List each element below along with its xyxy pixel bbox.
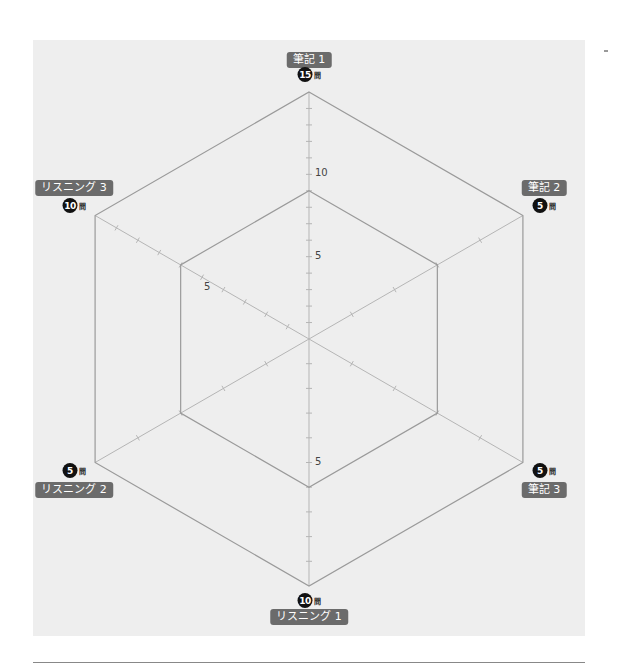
tick-label: 5 xyxy=(315,456,321,467)
axis-tick xyxy=(136,238,139,243)
axis-tick xyxy=(158,250,161,255)
axis-tick xyxy=(222,386,225,391)
radar-chart xyxy=(0,0,619,669)
axis-line xyxy=(309,216,523,340)
tick-label: 10 xyxy=(315,167,328,178)
count-unit: 問 xyxy=(79,466,86,476)
axis-tick xyxy=(479,238,482,243)
axis-tick xyxy=(286,324,289,329)
question-count-badge: 5問 xyxy=(63,463,86,478)
count-unit: 問 xyxy=(314,596,321,606)
axis-label-5: リスニング 3 xyxy=(35,180,113,196)
axis-tick xyxy=(115,225,118,230)
axis-tick xyxy=(243,299,246,304)
axis-tick xyxy=(479,435,482,440)
count-number: 15 xyxy=(298,67,313,82)
axis-tick xyxy=(393,386,396,391)
axis-label-3: リスニング 1 xyxy=(270,609,348,625)
tick-label: 5 xyxy=(204,281,210,292)
axis-tick xyxy=(350,312,353,317)
question-count-badge: 5問 xyxy=(533,198,556,213)
question-count-badge: 15問 xyxy=(298,67,321,82)
question-count-badge: 10問 xyxy=(63,198,86,213)
question-count-badge: 5問 xyxy=(533,463,556,478)
axis-label-4: リスニング 2 xyxy=(35,482,113,498)
bottom-rule xyxy=(33,662,585,663)
tick-label: 5 xyxy=(315,250,321,261)
count-number: 10 xyxy=(298,593,313,608)
axis-line xyxy=(309,339,523,463)
axis-label-1: 筆記 2 xyxy=(522,180,567,196)
axis-tick xyxy=(201,275,204,280)
question-count-badge: 10問 xyxy=(298,593,321,608)
axis-tick xyxy=(350,361,353,366)
corner-mark xyxy=(604,50,608,52)
axis-line xyxy=(95,339,309,463)
count-unit: 問 xyxy=(79,201,86,211)
axis-label-0: 筆記 1 xyxy=(287,52,332,68)
count-number: 5 xyxy=(63,463,78,478)
count-number: 5 xyxy=(533,463,548,478)
count-unit: 問 xyxy=(314,70,321,80)
count-number: 5 xyxy=(533,198,548,213)
axis-tick xyxy=(265,312,268,317)
count-number: 10 xyxy=(63,198,78,213)
axis-label-2: 筆記 3 xyxy=(522,482,567,498)
axis-tick xyxy=(136,435,139,440)
axis-tick xyxy=(222,287,225,292)
axis-tick xyxy=(265,361,268,366)
count-unit: 問 xyxy=(549,466,556,476)
count-unit: 問 xyxy=(549,201,556,211)
axis-tick xyxy=(393,287,396,292)
